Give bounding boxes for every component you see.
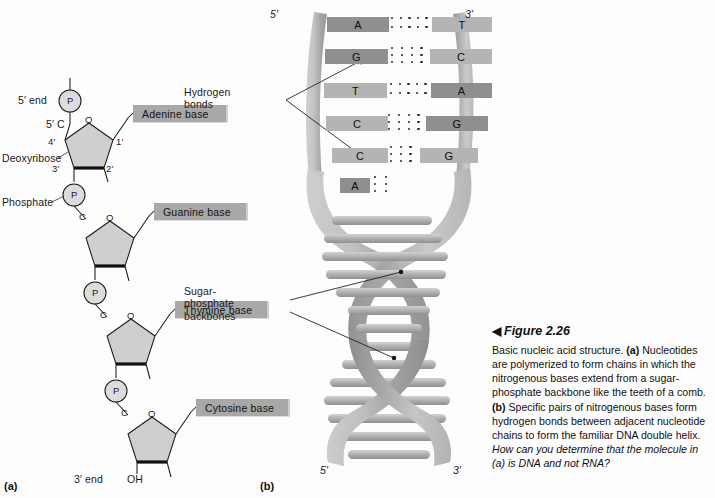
panel-a-nucleotide-chain: .ln { stroke:#1a1a1a; stroke-width:1.05;… — [0, 0, 248, 498]
carbon-symbol-3: C — [100, 309, 107, 320]
caption-tag-b: (b) — [492, 401, 506, 413]
base-pair-right-4: G — [426, 116, 488, 131]
figure-caption: ◀Figure 2.26 Basic nucleic acid structur… — [492, 323, 710, 470]
hydrogen-bond-dots-3 — [390, 83, 430, 98]
base-label-guanine: Guanine base — [154, 203, 248, 220]
panel-b-double-helix: .hl { stroke:#1a1a1a; stroke-width:.85; … — [248, 0, 488, 498]
base-pair-left-3: T — [324, 83, 387, 98]
ring-position-4prime: 4′ — [48, 136, 55, 147]
figure-caption-body: Basic nucleic acid structure. (a) Nucleo… — [492, 343, 710, 471]
caption-segment-3: Specific pairs of nitrogenous bases form… — [492, 401, 705, 441]
figure-title: ◀Figure 2.26 — [492, 323, 710, 340]
carbon-5-prime-label: 5′ C — [46, 118, 65, 130]
hydrogen-bond-dots-2 — [391, 47, 427, 66]
caption-question: How can you determine that the molecule … — [492, 443, 698, 469]
phosphate-symbol-1: P — [67, 95, 73, 106]
hydrogen-bond-dots-4 — [388, 114, 424, 133]
bottom-right-prime-end: 3′ — [453, 464, 461, 476]
five-prime-end-label: 5′ end — [18, 94, 47, 106]
hydroxyl-label: OH — [127, 473, 143, 485]
ring-position-1prime: 1′ — [116, 136, 123, 147]
sugar-phosphate-backbones-label: Sugar-phosphate backbones — [184, 285, 242, 322]
panel-b-drawing: .hl { stroke:#1a1a1a; stroke-width:.85; … — [248, 0, 488, 498]
figure-page: . . .ln { stroke:#1a1a1a; stroke-width:1… — [0, 0, 715, 498]
base-pair-right-1: T — [432, 17, 492, 32]
hydrogen-bond-dots-5 — [390, 146, 416, 165]
caption-segment-1: Basic nucleic acid structure. — [492, 344, 626, 356]
top-left-prime-end: 5′ — [270, 8, 278, 20]
panel-b-tag: (b) — [260, 480, 274, 492]
base-pair-left-6: A — [340, 178, 370, 193]
oxygen-symbol-4: O — [148, 408, 156, 419]
three-prime-end-label: 3′ end — [74, 473, 103, 485]
caption-tag-a: (a) — [626, 344, 639, 356]
panel-a-tag: (a) — [4, 480, 17, 492]
oxygen-symbol-2: O — [106, 212, 114, 223]
base-pair-left-2: G — [325, 49, 388, 64]
base-pair-left-1: A — [327, 17, 389, 32]
base-label-text: Guanine base — [163, 206, 231, 218]
base-pair-left-4: C — [326, 116, 388, 131]
phosphate-symbol-4: P — [113, 385, 119, 396]
hydrogen-bonds-label: Hydrogen bonds — [184, 86, 246, 111]
ring-position-3prime: 3′ — [52, 163, 59, 174]
bottom-left-prime-end: 5′ — [320, 464, 328, 476]
hydrogen-bond-dots-6 — [374, 176, 392, 195]
base-pair-right-3: A — [431, 83, 492, 98]
base-pair-right-5: G — [420, 148, 478, 163]
caption-arrow-icon: ◀ — [492, 324, 501, 338]
panel-a-drawing: .ln { stroke:#1a1a1a; stroke-width:1.05;… — [0, 0, 248, 498]
figure-title-text: Figure 2.26 — [504, 324, 570, 338]
phosphate-symbol-2: P — [71, 189, 77, 200]
phosphate-label: Phosphate — [2, 196, 53, 208]
carbon-symbol-2: C — [79, 211, 86, 222]
hydrogen-bond-dots-1 — [391, 17, 431, 32]
carbon-symbol-4: C — [121, 407, 128, 418]
oxygen-symbol-1: O — [85, 114, 93, 125]
oxygen-symbol-3: O — [127, 310, 135, 321]
base-pair-left-5: C — [332, 148, 388, 163]
phosphate-symbol-3: P — [92, 287, 98, 298]
ring-position-2prime: 2′ — [106, 163, 113, 174]
top-right-prime-end: 3′ — [465, 8, 473, 20]
base-pair-right-2: C — [430, 49, 492, 64]
